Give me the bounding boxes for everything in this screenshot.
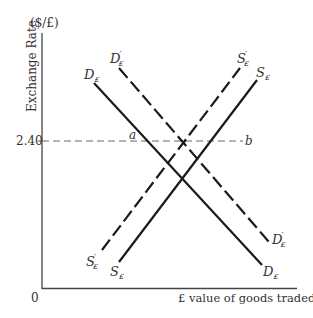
origin-label: 0: [31, 291, 39, 305]
supply-shifted-label-top: S′£: [237, 50, 249, 68]
demand-shifted-label-top: D′£: [109, 50, 124, 68]
supply-shifted-label-bottom: S′£: [86, 253, 98, 271]
point-b-label: b: [245, 134, 253, 148]
supply-label-top: S£: [256, 65, 270, 82]
demand-label-bottom: D£: [262, 264, 279, 281]
svg-text:S£: S£: [256, 65, 270, 82]
svg-text:D′£: D′£: [271, 231, 286, 249]
exchange-rate-diagram: ($/£) Exchange Rate 0 £ value of goods t…: [0, 0, 313, 318]
supply-curve-shifted: [102, 68, 240, 250]
svg-text:S′£: S′£: [86, 253, 98, 271]
svg-text:D′£: D′£: [109, 50, 124, 68]
x-axis-label: £ value of goods traded: [178, 291, 313, 305]
demand-shifted-label-bottom: D′£: [271, 231, 286, 249]
supply-curve: [119, 80, 257, 262]
y-axis-label: Exchange Rate: [25, 20, 39, 112]
svg-text:S′£: S′£: [237, 50, 249, 68]
svg-text:D£: D£: [262, 264, 279, 281]
point-a-label: a: [129, 128, 136, 142]
demand-label-top: D£: [83, 67, 100, 84]
demand-curve: [94, 83, 262, 265]
svg-text:S£: S£: [110, 264, 124, 281]
supply-label-bottom: S£: [110, 264, 124, 281]
svg-text:D£: D£: [83, 67, 100, 84]
